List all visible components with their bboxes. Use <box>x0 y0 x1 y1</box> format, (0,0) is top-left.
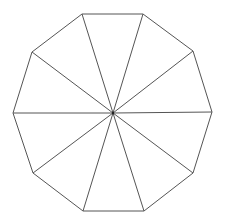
center-point <box>112 112 114 114</box>
diagram-canvas <box>0 0 227 221</box>
